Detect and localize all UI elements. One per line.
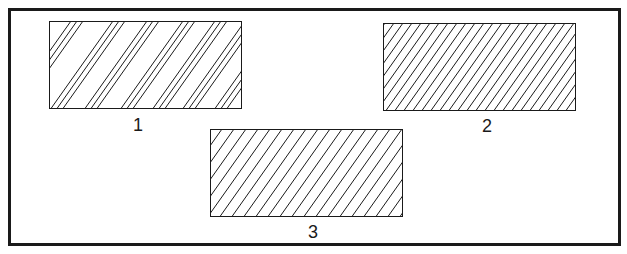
- hatched-panel-2: [383, 23, 576, 111]
- hatched-panel-3: [210, 129, 403, 217]
- panel-label-3: 3: [293, 223, 333, 241]
- panel-label-1: 1: [118, 116, 158, 134]
- hatched-panel-1: [49, 21, 242, 109]
- panel-label-2: 2: [467, 117, 507, 135]
- hatch-pattern-grouped: [49, 21, 242, 109]
- hatch-pattern-uniform: [210, 129, 403, 217]
- hatch-pattern-dense: [383, 23, 576, 111]
